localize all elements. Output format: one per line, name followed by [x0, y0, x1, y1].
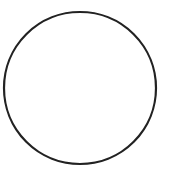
circle-figure: [0, 0, 173, 180]
circle-outline: [4, 12, 156, 164]
drawing-canvas: [0, 0, 173, 180]
